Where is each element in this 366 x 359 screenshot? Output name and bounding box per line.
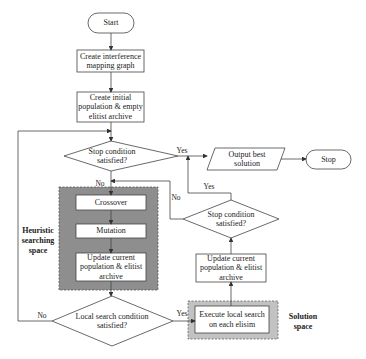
update-2-label: Update current population & elitist arch… xyxy=(197,254,265,282)
edge-label-yes-2: Yes xyxy=(199,182,219,191)
mutation-label: Mutation xyxy=(76,224,146,238)
execute-local-search-label: Execute local search on each elisim xyxy=(196,306,268,333)
edge-label-no-1: No xyxy=(92,179,108,188)
crossover-label: Crossover xyxy=(76,195,146,210)
stop-condition-1-label: Stop condition satisfied? xyxy=(86,145,138,167)
local-search-condition-label: Local search condition satisfied? xyxy=(72,310,152,332)
create-population-label: Create initial population & empty elitis… xyxy=(78,92,143,122)
edge-label-no-2: No xyxy=(168,193,184,202)
output-best-label: Output best solution xyxy=(222,148,272,170)
update-1-label: Update current population & elitist arch… xyxy=(77,253,145,281)
flowchart-canvas xyxy=(0,0,366,359)
start-label: Start xyxy=(88,13,134,33)
edge-label-no-3: No xyxy=(34,311,50,320)
solution-region-label: Solution space xyxy=(283,310,323,334)
heuristic-region-label: Heuristic searching space xyxy=(18,224,58,258)
create-graph-label: Create interference mapping graph xyxy=(79,50,142,72)
stop-label: Stop xyxy=(306,150,351,169)
edge-label-yes-3: Yes xyxy=(172,309,192,318)
stop-condition-2-label: Stop condition satisfied? xyxy=(205,208,257,230)
edge-label-yes-1: Yes xyxy=(172,146,192,155)
